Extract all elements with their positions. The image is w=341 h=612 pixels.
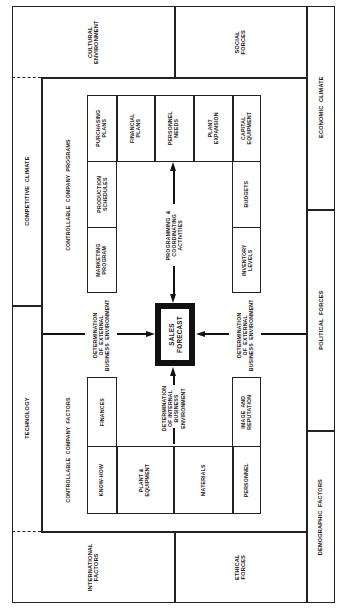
label-programming-coordinating: PROGRAMMING & COORDINATING ACTIVITIES	[155, 204, 193, 266]
right-external-arrow-a	[204, 333, 229, 335]
label-demographic-factors: DEMOGRAPHIC FACTORS	[306, 431, 335, 603]
right-external-arrow-b	[261, 333, 306, 335]
cell-budgets: BUDGETS	[232, 161, 261, 228]
internal-arrow-lower	[173, 428, 175, 444]
arrow-up-icon	[170, 162, 176, 171]
cell-materials: MATERIALS	[173, 446, 232, 514]
label-external-right: DETERMINATION OF EXTERNAL BUSINESS ENVIR…	[229, 300, 261, 370]
cell-know-how: KNOW-HOW	[87, 446, 116, 514]
label-political-forces: POLITICAL FORCES	[306, 210, 335, 430]
arrow-down-icon	[170, 294, 176, 303]
label-external-left: DETERMINATION OF EXTERNAL BUSINESS ENVIR…	[85, 300, 117, 370]
left-column-divider	[41, 78, 43, 531]
cell-inventory-levels: INVENTORY LEVELS	[232, 227, 261, 293]
cell-plant-equipment: PLANT & EQUIPMENT	[116, 446, 173, 514]
label-ethical-forces: ETHICAL FORCES	[174, 531, 306, 603]
cell-finances: FINANCES	[87, 377, 117, 447]
label-economic-climate: ECONOMIC CLIMATE	[306, 6, 335, 209]
label-cultural-environment: CULTURAL ENVIRONMENT	[12, 6, 174, 78]
cell-personnel: PERSONNEL	[232, 446, 261, 514]
cell-marketing-program: MARKETING PROGRAM	[87, 227, 117, 293]
label-technology: TECHNOLOGY	[12, 306, 41, 531]
left-external-arrow-a	[43, 333, 85, 335]
label-competitive-climate: COMPETITIVE CLIMATE	[12, 78, 41, 305]
cell-personnel-needs: PERSONNEL NEEDS	[154, 95, 193, 162]
cell-purchasing-plans: PURCHASING PLANS	[87, 95, 116, 162]
arrow-right-icon	[146, 331, 155, 337]
sales-forecast-label: SALES FORECAST	[155, 303, 195, 366]
programming-arrow-upper	[173, 168, 175, 204]
cell-production-schedules: PRODUCTION SCHEDULES	[87, 161, 117, 228]
label-social-forces: SOCIAL FORCES	[174, 6, 306, 78]
left-external-arrow-b	[117, 333, 147, 335]
cell-capital-equipment: CAPITAL EQUIPMENT	[232, 95, 261, 162]
programming-arrow-lower	[173, 266, 175, 296]
cell-image-reputation: IMAGE AND REPUTATION	[232, 377, 261, 447]
heading-controllable-programs: CONTROLLABLE COMPANY PROGRAMS	[58, 100, 78, 290]
heading-controllable-factors: CONTROLLABLE COMPANY FACTORS	[58, 380, 78, 520]
label-international-factors: INTERNATIONAL FACTORS	[12, 531, 174, 603]
cell-plant-expansion: PLANT EXPANSION	[193, 95, 232, 162]
cell-financial-plans: FINANCIAL PLANS	[116, 95, 154, 162]
